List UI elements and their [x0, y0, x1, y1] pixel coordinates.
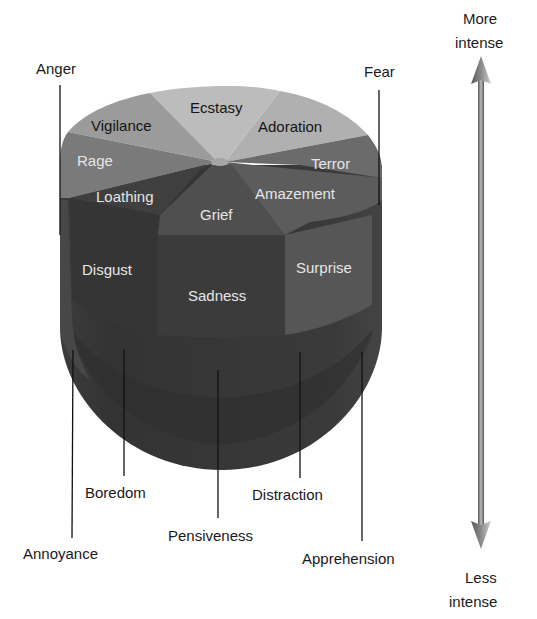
- emotion-cone-diagram: Ecstasy Adoration Vigilance Terror Rage …: [0, 0, 537, 619]
- arrow-down-head-icon: [471, 521, 491, 549]
- arrow-up-head-icon: [471, 56, 491, 84]
- label-rage: Rage: [77, 152, 113, 169]
- label-less-intense-line1: Less: [465, 569, 497, 586]
- label-sadness: Sadness: [188, 287, 246, 304]
- label-surprise: Surprise: [296, 259, 352, 276]
- label-distraction: Distraction: [252, 486, 323, 503]
- cap-center: [211, 158, 229, 166]
- label-pensiveness: Pensiveness: [168, 527, 253, 544]
- label-fear: Fear: [364, 63, 395, 80]
- label-adoration: Adoration: [258, 118, 322, 135]
- label-terror: Terror: [311, 155, 350, 172]
- label-more-intense-line2: intense: [455, 34, 503, 51]
- label-disgust: Disgust: [82, 261, 133, 278]
- label-boredom: Boredom: [85, 484, 146, 501]
- label-more-intense-line1: More: [463, 10, 497, 27]
- label-loathing: Loathing: [96, 188, 154, 205]
- label-less-intense-line2: intense: [449, 593, 497, 610]
- label-vigilance: Vigilance: [91, 117, 152, 134]
- label-annoyance: Annoyance: [23, 545, 98, 562]
- label-amazement: Amazement: [255, 185, 336, 202]
- label-apprehension: Apprehension: [302, 550, 395, 567]
- label-ecstasy: Ecstasy: [190, 99, 243, 116]
- arrow-shaft: [478, 75, 484, 531]
- intensity-arrow: [471, 56, 491, 549]
- label-grief: Grief: [200, 206, 233, 223]
- label-anger: Anger: [36, 60, 76, 77]
